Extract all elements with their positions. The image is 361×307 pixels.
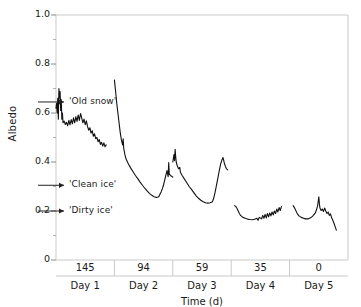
y-tick-label: 0.4 [35, 155, 50, 166]
x-day-label: Day 4 [230, 280, 290, 291]
x-day-label: Day 5 [289, 280, 349, 291]
x-value-label: 145 [55, 262, 115, 273]
x-day-label: Day 3 [172, 280, 232, 291]
annotation-label: 'Dirty ice' [69, 205, 113, 215]
y-tick-label: 0 [44, 253, 50, 264]
annotation-label: 'Clean ice' [69, 179, 116, 189]
y-tick-label: 1.0 [35, 8, 50, 19]
annotation-label: 'Old snow' [69, 96, 116, 106]
x-value-label: 59 [172, 262, 232, 273]
x-value-label: 0 [289, 262, 349, 273]
y-tick-label: 0.8 [35, 57, 50, 68]
x-day-label: Day 1 [55, 280, 115, 291]
y-tick-label: 0.2 [35, 204, 50, 215]
x-value-label: 94 [114, 262, 174, 273]
x-axis-title: Time (d) [152, 296, 252, 307]
y-tick-label: 0.6 [35, 106, 50, 117]
x-value-label: 35 [230, 262, 290, 273]
x-day-label: Day 2 [114, 280, 174, 291]
